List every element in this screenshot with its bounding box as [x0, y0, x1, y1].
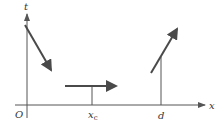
- t-axis-label: t: [24, 1, 29, 12]
- d-label: d: [158, 110, 164, 121]
- spacetime-diagram: t x O xc d: [0, 0, 219, 130]
- x-axis-label: x: [209, 100, 215, 111]
- descending-worldline-arrow: [25, 25, 51, 70]
- xc-label: xc: [88, 109, 98, 122]
- ascending-worldline-arrow: [151, 29, 177, 73]
- xc-label-sub: c: [94, 114, 98, 122]
- origin-label: O: [15, 109, 23, 120]
